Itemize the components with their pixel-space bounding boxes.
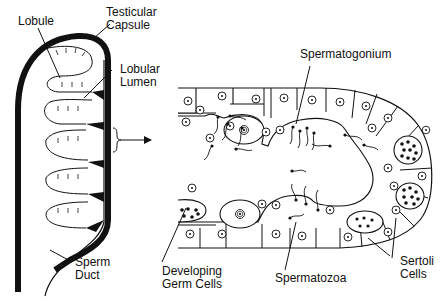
label-testicular-capsule-1: Testicular — [106, 5, 157, 19]
brace-arrow-icon — [113, 128, 152, 152]
label-developing-germ-cells-1: Developing — [162, 264, 222, 278]
label-sperm-duct-1: Sperm — [75, 255, 110, 269]
label-testicular-capsule-2: Capsule — [106, 18, 150, 32]
label-sertoli-cells-1: Sertoli — [400, 254, 434, 268]
diagram-canvas: Lobule Testicular Capsule Lobular Lumen … — [0, 0, 446, 302]
label-spermatozoa: Spermatozoa — [275, 271, 347, 285]
seminiferous-tubule — [162, 66, 432, 270]
label-lobular-lumen-2: Lumen — [120, 75, 157, 89]
label-developing-germ-cells-2: Germ Cells — [162, 277, 222, 291]
label-sertoli-cells-2: Cells — [400, 267, 427, 281]
label-lobule: Lobule — [18, 14, 54, 28]
label-spermatogonium: Spermatogonium — [300, 47, 391, 61]
label-sperm-duct-2: Duct — [75, 268, 100, 282]
lobule-tubule — [40, 46, 92, 228]
label-lobular-lumen-1: Lobular — [120, 62, 160, 76]
